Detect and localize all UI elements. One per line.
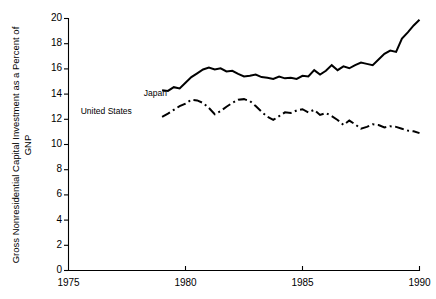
x-tick-label: 1990 xyxy=(396,277,436,288)
x-tick-label: 1975 xyxy=(45,277,93,288)
y-tick-label: 8 xyxy=(36,163,62,174)
series-line-japan xyxy=(162,20,419,91)
y-tick-label: 4 xyxy=(36,214,62,225)
chart-container: Gross Nonresidential Capital Investment … xyxy=(0,0,436,299)
y-tick-label: 6 xyxy=(36,188,62,199)
y-tick-label: 14 xyxy=(36,88,62,99)
y-tick-label: 0 xyxy=(36,264,62,275)
axis-spine xyxy=(69,19,420,271)
x-tick-label: 1985 xyxy=(279,277,327,288)
series-line-united-states xyxy=(162,99,419,133)
series-label-japan: Japan xyxy=(144,88,167,98)
y-tick-label: 20 xyxy=(36,12,62,23)
y-tick-label: 12 xyxy=(36,113,62,124)
y-tick-label: 18 xyxy=(36,37,62,48)
y-tick-label: 10 xyxy=(36,138,62,149)
y-tick-label: 16 xyxy=(36,62,62,73)
x-tick-label: 1980 xyxy=(162,277,210,288)
y-tick-label: 2 xyxy=(36,239,62,250)
series-label-united-states: United States xyxy=(81,106,132,116)
chart-plot-area xyxy=(0,0,436,299)
